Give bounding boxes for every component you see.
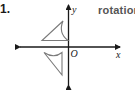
origin-label: O [71,48,78,59]
x-axis-label: x [115,49,121,60]
original-figure [42,21,68,41]
y-axis-label: y [71,4,77,15]
image-figure [44,53,62,76]
coordinate-graph: y O x [0,0,135,90]
